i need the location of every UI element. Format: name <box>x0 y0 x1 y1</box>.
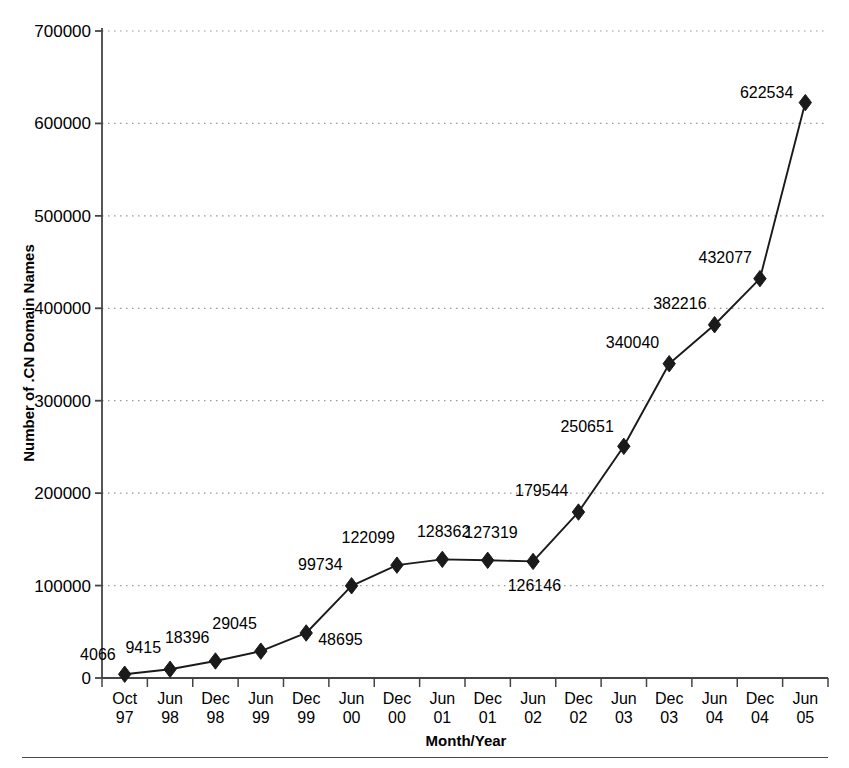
y-axis-ticks <box>95 31 102 678</box>
x-axis-title: Month/Year <box>426 732 507 749</box>
x-tick-label: 02 <box>570 709 588 726</box>
x-tick-label: Jun <box>429 690 455 707</box>
y-tick-label: 300000 <box>34 392 91 411</box>
x-tick-label: Dec <box>473 690 501 707</box>
y-tick-label: 200000 <box>34 484 91 503</box>
x-tick-label: Jun <box>520 690 546 707</box>
data-point-label: 432077 <box>699 249 752 266</box>
data-point-label: 340040 <box>606 334 659 351</box>
footer-divider <box>22 757 828 758</box>
data-point-label: 29045 <box>212 615 257 632</box>
data-point-labels: 4066941518396290454869599734122099128362… <box>80 84 793 664</box>
x-tick-label: Jun <box>339 690 365 707</box>
data-point-label: 382216 <box>653 295 706 312</box>
x-tick-label: Jun <box>702 690 728 707</box>
chart-figure: 0100000200000300000400000500000600000700… <box>0 0 849 768</box>
x-tick-label: Dec <box>564 690 592 707</box>
x-axis-ticks <box>102 678 828 687</box>
x-tick-label: Dec <box>292 690 320 707</box>
x-tick-label: 03 <box>660 709 678 726</box>
data-point-label: 9415 <box>125 639 161 656</box>
x-tick-label: 00 <box>343 709 361 726</box>
x-tick-label: Jun <box>157 690 183 707</box>
gridlines <box>102 31 828 586</box>
x-tick-label: 01 <box>479 709 497 726</box>
data-point-label: 128362 <box>417 523 470 540</box>
x-tick-label: 98 <box>207 709 225 726</box>
axes <box>102 28 828 678</box>
data-point-label: 179544 <box>515 482 568 499</box>
data-series-line <box>125 103 806 675</box>
x-tick-label: 04 <box>706 709 724 726</box>
data-point-marker <box>663 356 675 372</box>
data-point-marker <box>255 643 267 659</box>
data-point-marker <box>391 557 403 573</box>
x-tick-label: 03 <box>615 709 633 726</box>
x-tick-label: Jun <box>611 690 637 707</box>
series-polyline <box>125 103 806 675</box>
data-point-label: 122099 <box>342 529 395 546</box>
x-tick-label: 04 <box>751 709 769 726</box>
x-tick-label: 98 <box>161 709 179 726</box>
y-tick-label: 100000 <box>34 577 91 596</box>
x-tick-label: 05 <box>796 709 814 726</box>
y-tick-label: 600000 <box>34 114 91 133</box>
y-axis-tick-labels: 0100000200000300000400000500000600000700… <box>34 22 91 688</box>
x-axis-tick-labels: Oct97Jun98Dec98Jun99Dec99Jun00Dec00Jun01… <box>112 690 818 726</box>
x-tick-label: Dec <box>655 690 683 707</box>
data-point-marker <box>481 552 493 568</box>
y-axis-title: Number of .CN Domain Names <box>20 244 37 462</box>
x-tick-label: 99 <box>297 709 315 726</box>
data-point-marker <box>799 94 811 110</box>
data-point-marker <box>164 661 176 677</box>
data-point-label: 126146 <box>508 577 561 594</box>
data-point-label: 250651 <box>560 418 613 435</box>
x-tick-label: Oct <box>112 690 137 707</box>
data-series-markers <box>118 94 811 682</box>
y-tick-label: 400000 <box>34 299 91 318</box>
data-point-marker <box>209 653 221 669</box>
x-tick-label: 00 <box>388 709 406 726</box>
data-point-label: 48695 <box>318 631 363 648</box>
x-tick-label: 01 <box>433 709 451 726</box>
data-point-label: 127319 <box>464 524 517 541</box>
data-point-marker <box>436 551 448 567</box>
x-tick-label: Dec <box>383 690 411 707</box>
data-point-label: 99734 <box>298 556 343 573</box>
x-tick-label: 99 <box>252 709 270 726</box>
y-tick-label: 700000 <box>34 22 91 41</box>
x-tick-label: Jun <box>792 690 818 707</box>
x-tick-label: Dec <box>201 690 229 707</box>
y-tick-label: 500000 <box>34 207 91 226</box>
x-tick-label: 02 <box>524 709 542 726</box>
data-point-label: 622534 <box>740 84 793 101</box>
y-tick-label: 0 <box>82 669 91 688</box>
data-point-label: 18396 <box>165 629 210 646</box>
x-tick-label: Jun <box>248 690 274 707</box>
data-point-label: 4066 <box>80 646 116 663</box>
x-tick-label: Dec <box>746 690 774 707</box>
x-tick-label: 97 <box>116 709 134 726</box>
line-chart: 0100000200000300000400000500000600000700… <box>0 0 849 768</box>
data-point-marker <box>118 666 130 682</box>
